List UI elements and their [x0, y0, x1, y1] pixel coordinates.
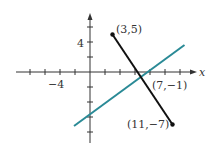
point-marker-3-5	[110, 32, 114, 36]
coordinate-plot: x −4 4 (3,5) (7,−1) (11,−7)	[0, 0, 216, 150]
point-marker-11-neg7	[170, 122, 174, 126]
y-tick-label-4: 4	[77, 37, 84, 50]
x-axis-label: x	[199, 66, 206, 79]
plot-svg: x −4 4 (3,5) (7,−1) (11,−7)	[0, 0, 216, 150]
x-tick-label-neg4: −4	[48, 78, 64, 91]
point-label-3-5: (3,5)	[116, 23, 142, 36]
y-axis	[87, 13, 93, 143]
y-axis-arrow-icon	[88, 13, 93, 20]
x-axis	[16, 69, 197, 75]
x-axis-arrow-icon	[190, 70, 197, 75]
point-label-7-neg1: (7,−1)	[152, 79, 187, 92]
point-label-11-neg7: (11,−7)	[127, 118, 169, 131]
